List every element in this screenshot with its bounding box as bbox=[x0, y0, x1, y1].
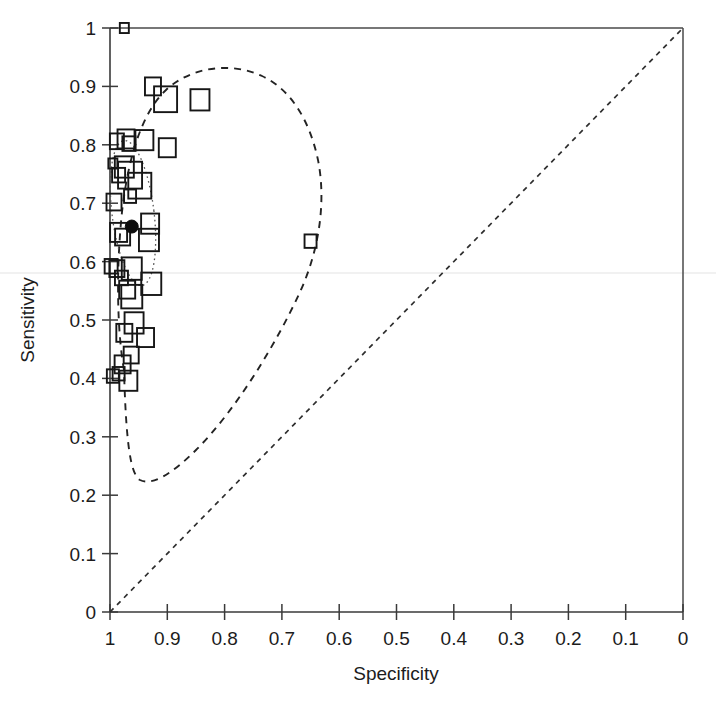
y-tick-label: 0.1 bbox=[70, 544, 96, 565]
x-tick-labels: 1 0.9 0.8 0.7 0.6 0.5 0.4 0.3 0.2 0.1 0 bbox=[105, 628, 689, 649]
x-tick-label: 0.7 bbox=[269, 628, 295, 649]
y-tick-label: 0.3 bbox=[70, 427, 96, 448]
study-marker bbox=[125, 312, 144, 333]
study-marker bbox=[135, 130, 153, 150]
study-marker bbox=[107, 194, 122, 211]
y-tick-label: 0.6 bbox=[70, 252, 96, 273]
study-marker bbox=[124, 189, 136, 202]
study-marker bbox=[305, 234, 317, 247]
sroc-figure: 0 0.1 0.2 0.3 0.4 0.5 0.6 0.7 0.8 0.9 1 … bbox=[0, 0, 716, 711]
x-tick-label: 0.6 bbox=[326, 628, 352, 649]
x-tick-label: 0.4 bbox=[441, 628, 468, 649]
x-tick-label: 0.2 bbox=[555, 628, 581, 649]
y-tick-label: 0.2 bbox=[70, 485, 96, 506]
x-tick-label: 0 bbox=[678, 628, 689, 649]
x-tick-label: 0.5 bbox=[383, 628, 409, 649]
study-marker bbox=[159, 138, 176, 157]
y-tick-labels: 0 0.1 0.2 0.3 0.4 0.5 0.6 0.7 0.8 0.9 1 bbox=[70, 18, 97, 623]
y-axis-title: Sensitivity bbox=[17, 277, 38, 363]
x-tick-label: 0.3 bbox=[498, 628, 524, 649]
study-marker bbox=[141, 273, 161, 295]
study-marker bbox=[118, 129, 135, 148]
y-tick-label: 1 bbox=[85, 18, 96, 39]
study-marker bbox=[121, 285, 142, 309]
summary-estimate-marker bbox=[125, 220, 138, 233]
plot-canvas: 0 0.1 0.2 0.3 0.4 0.5 0.6 0.7 0.8 0.9 1 … bbox=[0, 0, 716, 711]
study-marker bbox=[118, 162, 142, 189]
chance-diagonal-line bbox=[110, 28, 683, 612]
study-marker bbox=[137, 328, 154, 347]
y-tick-label: 0.4 bbox=[70, 368, 97, 389]
study-marker-group bbox=[105, 23, 317, 391]
study-marker bbox=[190, 89, 209, 110]
study-marker bbox=[141, 214, 159, 234]
x-tick-label: 1 bbox=[105, 628, 116, 649]
x-tick-label: 0.1 bbox=[612, 628, 638, 649]
study-marker bbox=[110, 223, 127, 242]
x-axis-title: Specificity bbox=[353, 663, 439, 684]
y-tick-label: 0.8 bbox=[70, 135, 96, 156]
y-tick-label: 0 bbox=[85, 602, 96, 623]
y-tick-label: 0.5 bbox=[70, 310, 96, 331]
y-tick-label: 0.7 bbox=[70, 193, 96, 214]
y-tick-label: 0.9 bbox=[70, 76, 96, 97]
x-tick-label: 0.8 bbox=[211, 628, 237, 649]
x-tick-label: 0.9 bbox=[154, 628, 180, 649]
summary-marker-group bbox=[125, 220, 138, 233]
